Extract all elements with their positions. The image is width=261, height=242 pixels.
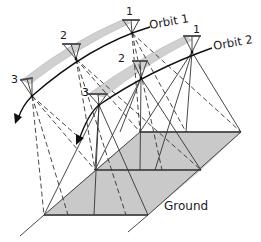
orbit2-sat1-label: 1 — [193, 23, 200, 36]
orbit1-sat2-label: 2 — [60, 29, 67, 42]
ground-plane — [20, 132, 241, 236]
orbit2-satellites — [88, 36, 201, 105]
orbit2-sat2-label: 2 — [118, 52, 125, 65]
satellite-nadir-points — [31, 32, 194, 107]
orbit1-sat1-label: 1 — [126, 5, 133, 18]
orbit2-satellite-1-icon — [183, 36, 201, 52]
orbit1-swath-path — [22, 19, 130, 84]
orbit2-sat3-label: 3 — [82, 86, 89, 99]
orbit1-label: Orbit 1 — [148, 11, 190, 32]
orbit-coverage-diagram: 1 2 3 1 2 3 Orbit 1 Orbit 2 Ground — [0, 0, 261, 242]
orbit2-label: Orbit 2 — [212, 32, 254, 53]
orbit1-sat3-label: 3 — [11, 73, 18, 86]
orbit1-arrow-icon — [14, 113, 22, 124]
ground-label: Ground — [164, 199, 208, 213]
